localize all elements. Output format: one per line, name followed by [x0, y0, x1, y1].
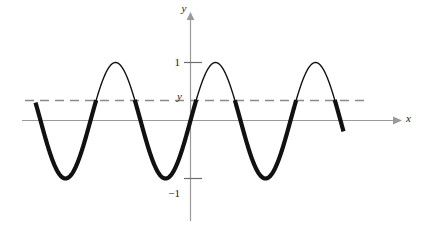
y-axis-label: y	[181, 2, 187, 14]
level-label-y: y	[176, 90, 182, 102]
figure-canvas: y x y 1 −1	[0, 0, 424, 231]
tick-label-negative-one: −1	[168, 187, 180, 199]
figure-background	[0, 0, 424, 231]
sine-curve-figure: y x y 1 −1	[0, 0, 424, 231]
tick-label-one: 1	[175, 56, 181, 68]
x-axis-label: x	[405, 112, 411, 124]
